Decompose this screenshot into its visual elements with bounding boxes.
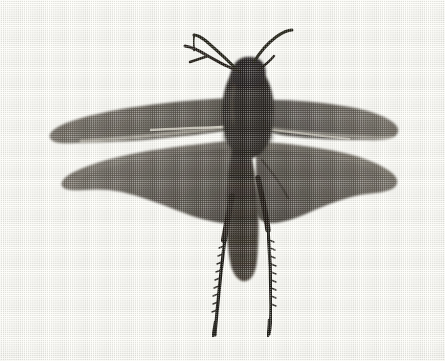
wing-root-shadow (224, 120, 272, 152)
grasshopper-photograph (0, 0, 445, 361)
figure-plate (0, 0, 445, 361)
